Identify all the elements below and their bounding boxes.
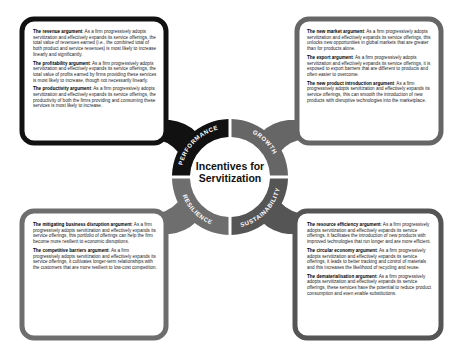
new-market-argument: The new market argument: As a firm progr… [307,29,433,52]
mitigating-business-disruption-argument: The mitigating business disruption argum… [33,222,157,245]
new-product-introduction-argument: The new product introduction argument: A… [307,81,433,104]
sustainability-box-content: The resource efficiency argument: As a f… [307,222,433,299]
title-line-1: Incentives for [190,160,270,172]
export-argument: The export argument: As a firm progressi… [307,55,433,78]
productivity-argument: The productivity argument: As a firm pro… [33,86,157,109]
growth-box-content: The new market argument: As a firm progr… [307,29,433,106]
title-line-2: Servitization [190,172,270,184]
resource-efficiency-argument: The resource efficiency argument: As a f… [307,222,433,245]
profitability-argument: The profitability argument: As a firm pr… [33,61,157,84]
diagram-title: Incentives for Servitization [190,160,270,184]
revenue-argument: The revenue argument: As a firm progress… [33,29,157,58]
dematerialisation-argument: The dematerialisation argument: As a fir… [307,274,433,297]
resilience-box-content: The mitigating business disruption argum… [33,222,157,274]
competitive-barriers-argument: The competitive barriers argument: As a … [33,248,157,271]
circular-economy-argument: The circular economy argument: As a firm… [307,248,433,271]
performance-box-content: The revenue argument: As a firm progress… [33,29,157,112]
